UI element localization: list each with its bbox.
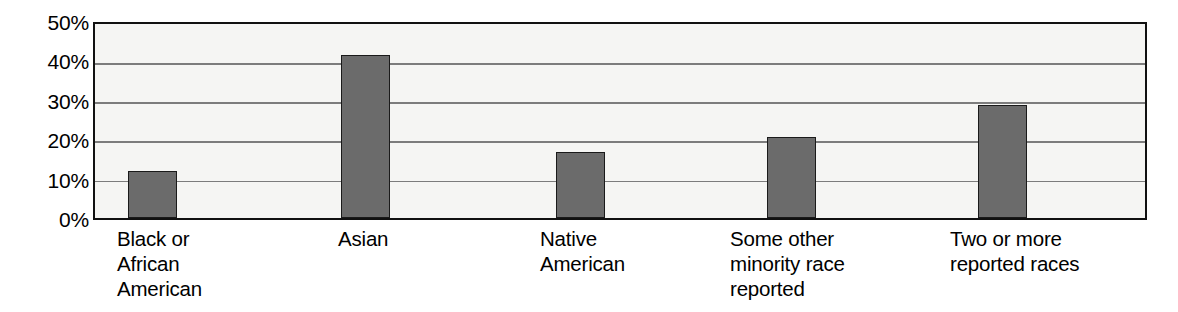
gridline-30 xyxy=(95,102,1145,104)
bar-asian xyxy=(341,55,390,218)
y-axis-tick-label: 0% xyxy=(9,209,89,230)
x-axis-label-asian: Asian xyxy=(338,226,388,251)
x-axis-label-some-other-minority-race: Some other minority race reported xyxy=(730,226,845,301)
x-axis-label-native-american: Native American xyxy=(540,226,625,276)
bar-black-or-african-american xyxy=(128,171,177,218)
y-axis-tick-label: 40% xyxy=(9,51,89,72)
y-axis-tick-label: 30% xyxy=(9,91,89,112)
x-axis-label-black-or-african-american: Black or African American xyxy=(117,226,202,301)
y-axis-tick-label: 20% xyxy=(9,130,89,151)
y-axis-tick-label: 50% xyxy=(9,12,89,33)
y-axis-tick-label: 10% xyxy=(9,170,89,191)
bar-some-other-minority-race xyxy=(767,137,816,218)
x-axis-label-two-or-more-reported-races: Two or more reported races xyxy=(950,226,1079,276)
bar-two-or-more-reported-races xyxy=(978,105,1027,218)
bar-chart: 50% 40% 30% 20% 10% 0% Black or African … xyxy=(0,0,1178,312)
bar-native-american xyxy=(556,152,605,218)
gridline-40 xyxy=(95,63,1145,65)
plot-area xyxy=(93,22,1147,220)
